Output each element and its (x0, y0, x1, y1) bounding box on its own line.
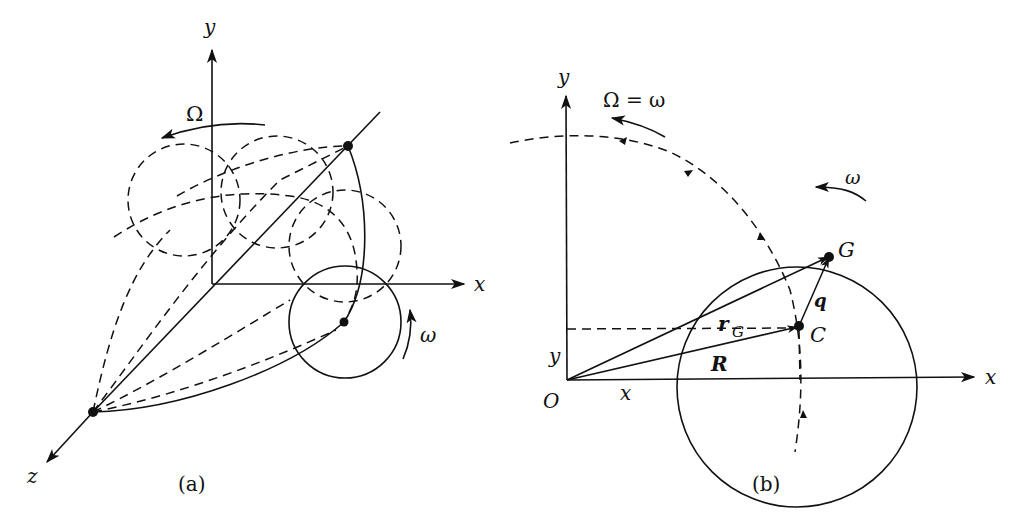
vector-r-label: r (718, 312, 730, 336)
x-axis-label-b: x (985, 365, 996, 389)
y-axis-b (566, 96, 567, 380)
y-projection-line (567, 328, 792, 329)
point-G-label: G (838, 238, 855, 262)
spin-arrow-a (403, 310, 411, 359)
point-C (794, 321, 804, 331)
vector-r-subscript: G (732, 323, 744, 341)
point-apex (88, 407, 98, 417)
figure-canvas: Ω ω y x z (a) Ω = ω (0, 0, 1018, 517)
point-center (340, 318, 349, 327)
precession-arrow-b (612, 118, 665, 137)
figure-b: Ω = ω ω y x O x y C G q r G R (b) (510, 65, 996, 507)
arc-arrowhead-2 (684, 170, 693, 177)
rolling-disk (677, 267, 917, 507)
solid-path-right (344, 146, 365, 322)
dashed-path-upper (177, 146, 348, 196)
point-top (343, 141, 353, 151)
vector-R-label: R (710, 352, 728, 376)
precession-arrow-a (162, 124, 265, 138)
dashed-generator-4 (93, 330, 336, 412)
dashed-disk-3 (289, 190, 401, 302)
vector-rG (567, 259, 824, 380)
dashed-disk-1 (128, 144, 240, 256)
spin-arrow-b (816, 187, 866, 201)
z-axis-label-a: z (26, 464, 38, 488)
precession-label-b: Ω = ω (603, 88, 665, 112)
x-projection-line (799, 330, 800, 380)
coord-x-label: x (620, 381, 631, 405)
vector-R (567, 328, 793, 380)
arc-arrowhead-3 (757, 232, 764, 240)
dashed-disk-2 (221, 136, 333, 248)
x-axis-label-a: x (474, 272, 485, 296)
dashed-generator-3 (93, 300, 290, 412)
solid-path-bottom (93, 322, 344, 412)
dashed-path-lower (114, 194, 357, 322)
point-G (824, 252, 834, 262)
point-C-label: C (810, 323, 826, 347)
x-axis-b (567, 377, 974, 380)
spin-label-a: ω (420, 323, 436, 347)
y-axis-label-b: y (557, 65, 570, 89)
arc-arrowhead-4 (800, 410, 807, 418)
spin-axis-line (93, 112, 380, 412)
caption-a: (a) (178, 472, 206, 496)
coord-y-label: y (548, 344, 561, 368)
z-axis-a (47, 412, 93, 462)
vector-q-label: q (814, 290, 827, 311)
origin-label: O (543, 389, 559, 413)
spin-label-b: ω (845, 166, 861, 188)
figure-a: Ω ω y x z (a) (26, 15, 485, 496)
precession-label-a: Ω (186, 102, 203, 126)
y-axis-label-a: y (203, 15, 216, 39)
dashed-generator-1 (93, 230, 170, 412)
caption-b: (b) (752, 472, 780, 496)
